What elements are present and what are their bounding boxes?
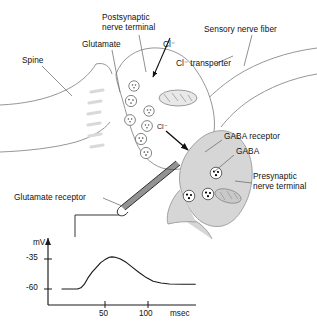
label-glutamate-receptor: Glutamate receptor xyxy=(14,193,86,203)
label-glutamate: Glutamate xyxy=(82,40,121,50)
axis-label-y: mV xyxy=(33,238,45,247)
label-spine: Spine xyxy=(22,56,43,66)
dendrite-spine-shape xyxy=(0,63,112,152)
label-gaba-receptor: GABA receptor xyxy=(224,132,280,142)
label-gaba: GABA xyxy=(236,147,259,157)
recording-electrode xyxy=(75,161,180,237)
label-sensory-nerve-fiber: Sensory nerve fiber xyxy=(204,25,277,35)
axis-label-x: msec xyxy=(170,309,190,318)
glutamate-receptor-band xyxy=(88,90,103,147)
recording-trace-plot xyxy=(44,238,196,308)
label-postsynaptic-nerve-terminal: Postsynaptic nerve terminal xyxy=(102,13,155,32)
mitochondrion-postsynaptic xyxy=(159,90,197,106)
label-cleft-chloride: Cl⁻ xyxy=(157,122,168,132)
label-chloride: Cl⁻ xyxy=(163,40,175,50)
label-presynaptic-nerve-terminal: Presynaptic nerve terminal xyxy=(253,172,306,191)
x-tick-label-100: 100 xyxy=(139,309,153,318)
x-tick-label-50: 50 xyxy=(99,309,108,318)
y-tick-label-lower: -60 xyxy=(26,283,38,292)
y-tick-label-upper: -35 xyxy=(26,253,38,262)
label-chloride-transporter: Cl⁻ transporter xyxy=(176,59,231,69)
synapse-diagram xyxy=(0,0,317,326)
